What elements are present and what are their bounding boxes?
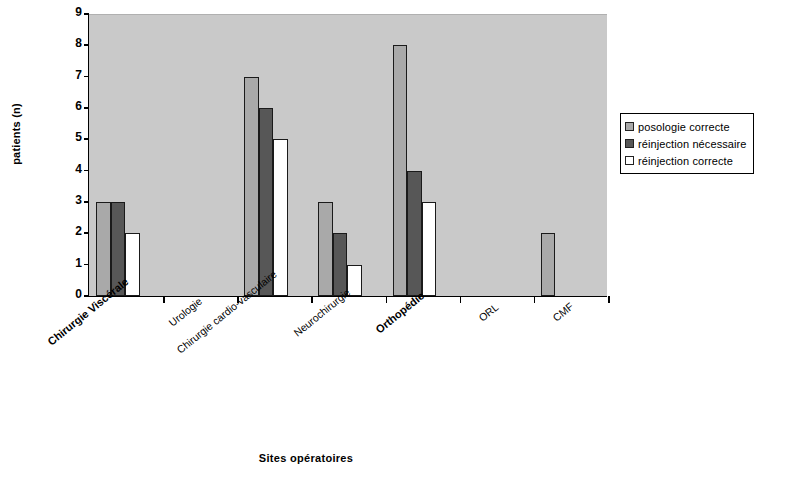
- y-tick-mark: [84, 107, 89, 109]
- y-tick-mark: [84, 170, 89, 172]
- legend-swatch-icon: [625, 139, 634, 148]
- y-tick-label: 0: [62, 287, 82, 301]
- x-axis-tick: [386, 296, 388, 303]
- plot-area: 0123456789: [88, 15, 607, 297]
- y-tick-mark: [84, 264, 89, 266]
- y-tick-mark: [84, 201, 89, 203]
- x-axis-title: Sites opératoires: [0, 452, 612, 464]
- y-tick-label: 1: [62, 256, 82, 270]
- bar: [244, 77, 259, 296]
- y-tick-mark: [84, 44, 89, 46]
- x-axis-tick: [311, 296, 313, 303]
- legend-item: réinjection correcte: [625, 152, 747, 169]
- y-tick-label: 4: [62, 162, 82, 176]
- legend-label: réinjection nécessaire: [638, 138, 747, 150]
- x-axis-tick: [534, 296, 536, 303]
- legend-swatch-icon: [625, 122, 634, 131]
- y-tick-mark: [84, 138, 89, 140]
- bar: [96, 202, 111, 296]
- y-axis-title: patients (n): [10, 74, 22, 194]
- y-tick-mark: [84, 232, 89, 234]
- y-tick-label: 2: [62, 224, 82, 238]
- y-tick-mark: [84, 76, 89, 78]
- y-tick-mark: [84, 13, 89, 15]
- y-tick-label: 8: [62, 36, 82, 50]
- y-tick-label: 3: [62, 193, 82, 207]
- bar: [407, 171, 422, 296]
- bar: [422, 202, 437, 296]
- y-tick-mark: [84, 295, 89, 297]
- bar: [541, 233, 556, 296]
- chart-legend: posologie correcteréinjection nécessaire…: [620, 113, 754, 174]
- legend-item: réinjection nécessaire: [625, 135, 747, 152]
- legend-item: posologie correcte: [625, 118, 747, 135]
- x-axis-category-label: ORL: [476, 301, 500, 324]
- legend-label: réinjection correcte: [638, 155, 733, 167]
- x-axis-tick: [608, 296, 610, 303]
- x-axis-category-label: Urologie: [167, 295, 205, 329]
- y-tick-label: 6: [62, 99, 82, 113]
- legend-swatch-icon: [625, 156, 634, 165]
- x-axis-category-label: CMF: [550, 300, 575, 324]
- y-tick-label: 5: [62, 130, 82, 144]
- x-axis-tick: [163, 296, 165, 303]
- legend-label: posologie correcte: [638, 121, 730, 133]
- bar: [318, 202, 333, 296]
- x-axis-tick: [460, 296, 462, 303]
- y-tick-label: 7: [62, 68, 82, 82]
- chart-figure: patients (n) 0123456789 Sites opératoire…: [0, 0, 786, 477]
- y-tick-label: 9: [62, 5, 82, 19]
- bar: [393, 45, 408, 296]
